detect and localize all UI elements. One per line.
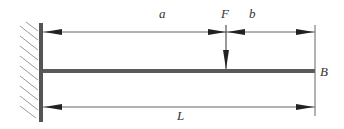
cantilever-diagram: a F b B L (0, 0, 344, 129)
label-b: b (249, 6, 256, 21)
dimension-b (226, 29, 315, 35)
label-L: L (176, 108, 184, 123)
label-a: a (159, 6, 166, 21)
label-B: B (320, 64, 328, 79)
wall-hatch (20, 22, 38, 118)
label-F: F (220, 6, 230, 21)
dimension-a (43, 29, 226, 35)
fixed-support-wall (39, 23, 43, 122)
beam (43, 69, 315, 73)
